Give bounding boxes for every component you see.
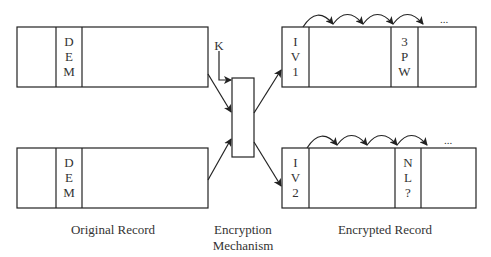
iv-field-bottom: IV2 (282, 155, 309, 200)
encrypted-record-bottom (282, 148, 476, 208)
ellipsis-top: ... (432, 12, 456, 27)
encryption-mechanism-caption: EncryptionMechanism (205, 222, 281, 254)
key-arrow (219, 51, 231, 80)
ellipsis-bottom: ... (436, 133, 460, 148)
encrypted-record-caption: Encrypted Record (325, 222, 445, 238)
encrypted-field-top: 3PW (391, 34, 418, 79)
original-record-top (17, 27, 208, 87)
original-bottom-field: DEM (56, 155, 82, 200)
encryption-mechanism-box (232, 78, 254, 157)
input-arrow-bottom (208, 139, 231, 180)
original-top-field: DEM (56, 34, 82, 79)
encrypted-record-top (282, 27, 476, 87)
output-arrow-bottom (254, 142, 281, 186)
chain-arcs-bottom (307, 136, 427, 149)
original-record-caption: Original Record (50, 222, 176, 238)
original-record-bottom (17, 148, 208, 208)
output-arrow-top (254, 70, 281, 113)
iv-field-top: IV1 (282, 34, 309, 79)
chain-arcs-top (303, 15, 423, 28)
key-label: K (211, 38, 227, 53)
encrypted-field-bottom: NL? (395, 155, 421, 200)
